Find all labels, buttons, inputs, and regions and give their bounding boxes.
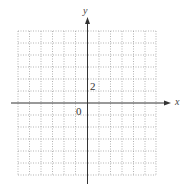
x-axis-label: x — [175, 97, 179, 107]
y-axis-label: y — [83, 6, 87, 16]
y-tick-label: 2 — [90, 81, 96, 92]
y-axis-arrow-icon — [85, 17, 90, 24]
origin-label: 0 — [76, 106, 82, 117]
coordinate-plane — [0, 0, 188, 191]
axes — [11, 22, 166, 184]
x-axis-arrow-icon — [164, 101, 171, 106]
